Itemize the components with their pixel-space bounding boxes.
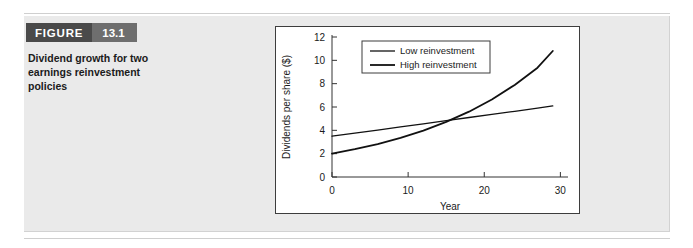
legend-label-0: Low reinvestment — [400, 45, 475, 56]
top-divider — [24, 13, 670, 14]
chart-card: 0246810120102030YearDividends per share … — [275, 26, 580, 214]
y-tick-label: 8 — [319, 78, 325, 89]
y-tick-label: 2 — [319, 148, 325, 159]
figure-caption: Dividend growth for two earnings reinves… — [28, 51, 218, 94]
y-tick-label: 0 — [319, 172, 325, 183]
line-chart: 0246810120102030YearDividends per share … — [276, 27, 579, 213]
figure-caption-line-3: policies — [28, 79, 218, 93]
figure-page: FIGURE 13.1 Dividend growth for two earn… — [0, 0, 693, 248]
y-axis-title: Dividends per share ($) — [281, 55, 292, 159]
figure-badge-label: FIGURE — [26, 23, 92, 42]
y-tick-label: 12 — [314, 32, 326, 43]
figure-badge-number: 13.1 — [92, 23, 136, 42]
figure-badge: FIGURE 13.1 — [26, 23, 137, 42]
series-line-0 — [332, 106, 553, 136]
y-tick-label: 6 — [319, 102, 325, 113]
x-tick-label: 20 — [479, 185, 491, 196]
y-tick-label: 4 — [319, 125, 325, 136]
x-tick-label: 0 — [329, 185, 335, 196]
figure-caption-line-2: earnings reinvestment — [28, 65, 218, 79]
x-tick-label: 30 — [555, 185, 567, 196]
y-tick-label: 10 — [314, 55, 326, 66]
x-axis-title: Year — [440, 201, 461, 212]
legend-label-1: High reinvestment — [400, 59, 477, 70]
bottom-divider — [24, 238, 670, 239]
x-tick-label: 10 — [403, 185, 415, 196]
figure-caption-line-1: Dividend growth for two — [28, 51, 218, 65]
